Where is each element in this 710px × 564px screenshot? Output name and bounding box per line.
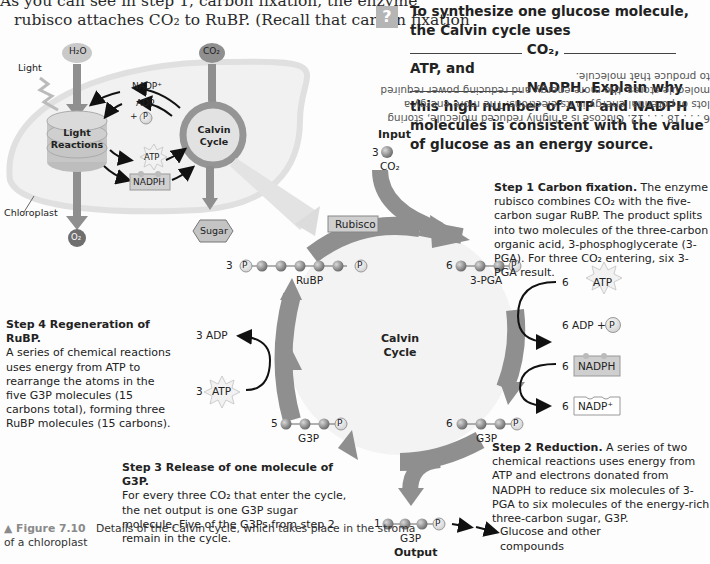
o2-label: O₂ (71, 232, 81, 242)
figure-number: ▲ Figure 7.10 (4, 522, 86, 535)
nadp-plus-label: NADP⁺ (132, 81, 162, 91)
atp-small-label: ATP (144, 152, 159, 162)
step-1-description: Step 1 Carbon fixation. The enzyme rubis… (494, 181, 710, 280)
step-2-title: Step 2 Reduction. (492, 441, 603, 454)
co2-label: CO₂ (203, 46, 220, 56)
calvin-center-label-2: Cycle (380, 346, 420, 359)
step-4-description: Step 4 Regeneration of RuBP. A series of… (6, 318, 176, 432)
rubp-p-left: P (242, 260, 247, 270)
pga-count: 6 (446, 259, 453, 271)
rubp-count: 3 (226, 259, 233, 271)
plus-label: + (130, 111, 138, 121)
atp-regen-count: 3 (196, 385, 203, 397)
sugar-label: Sugar (200, 225, 228, 236)
input-label: Input (378, 128, 411, 141)
calvin-center-label-1: Calvin (380, 332, 420, 345)
g3p6-count: 6 (446, 417, 453, 429)
nadph-count: 6 (562, 360, 569, 372)
step-4-title: Step 4 Regeneration of RuBP. (6, 318, 150, 345)
rubisco-label: Rubisco (335, 218, 376, 230)
g3p5-label: G3P (298, 432, 319, 444)
adp-label: ADP (136, 98, 155, 108)
nadph-label: NADPH (578, 360, 615, 372)
step-4-body: A series of chemical reactions uses ener… (6, 346, 171, 430)
input-count: 3 (372, 146, 379, 158)
glucose-label-1: Glucose and other (500, 525, 601, 538)
adp-regen-label: 3 ADP (196, 329, 228, 341)
light-label: Light (18, 62, 42, 73)
atp-regen-label: ATP (212, 385, 231, 397)
output-p: P (435, 518, 440, 528)
step-2-description: Step 2 Reduction. A series of two chemic… (492, 441, 710, 526)
adp-out-label: 6 ADP + (562, 319, 606, 331)
calvin-small-label-2: Cycle (196, 136, 232, 147)
adp-out-p: P (609, 319, 615, 330)
step-3-title: Step 3 Release of one molecule of G3P. (122, 461, 333, 488)
rubp-p-right: P (357, 260, 362, 270)
step-1-body: The enzyme rubisco combines CO₂ with the… (494, 181, 708, 279)
figure-caption: ▲ Figure 7.10 Details of the Calvin cycl… (4, 522, 424, 550)
g3p5-count: 5 (271, 417, 278, 429)
p-label-small: P (143, 112, 148, 121)
rubp-label: RuBP (296, 274, 323, 286)
chloroplast-label: Chloroplast (4, 207, 58, 218)
g3p5-p: P (337, 418, 342, 428)
step-1-title: Step 1 Carbon fixation. (494, 181, 637, 194)
nadph-small-label: NADPH (133, 177, 165, 187)
nadp-label: NADP⁺ (578, 400, 613, 412)
glucose-label-2: compounds (500, 540, 564, 553)
input-co2-label: CO₂ (380, 160, 400, 172)
g3p6-p: P (513, 418, 518, 428)
light-reactions-label-2: Reactions (50, 139, 104, 150)
light-reactions-label-1: Light (62, 127, 92, 138)
h2o-label: H₂O (69, 46, 86, 56)
calvin-small-label-1: Calvin (196, 124, 232, 135)
nadp-count: 6 (562, 400, 569, 412)
